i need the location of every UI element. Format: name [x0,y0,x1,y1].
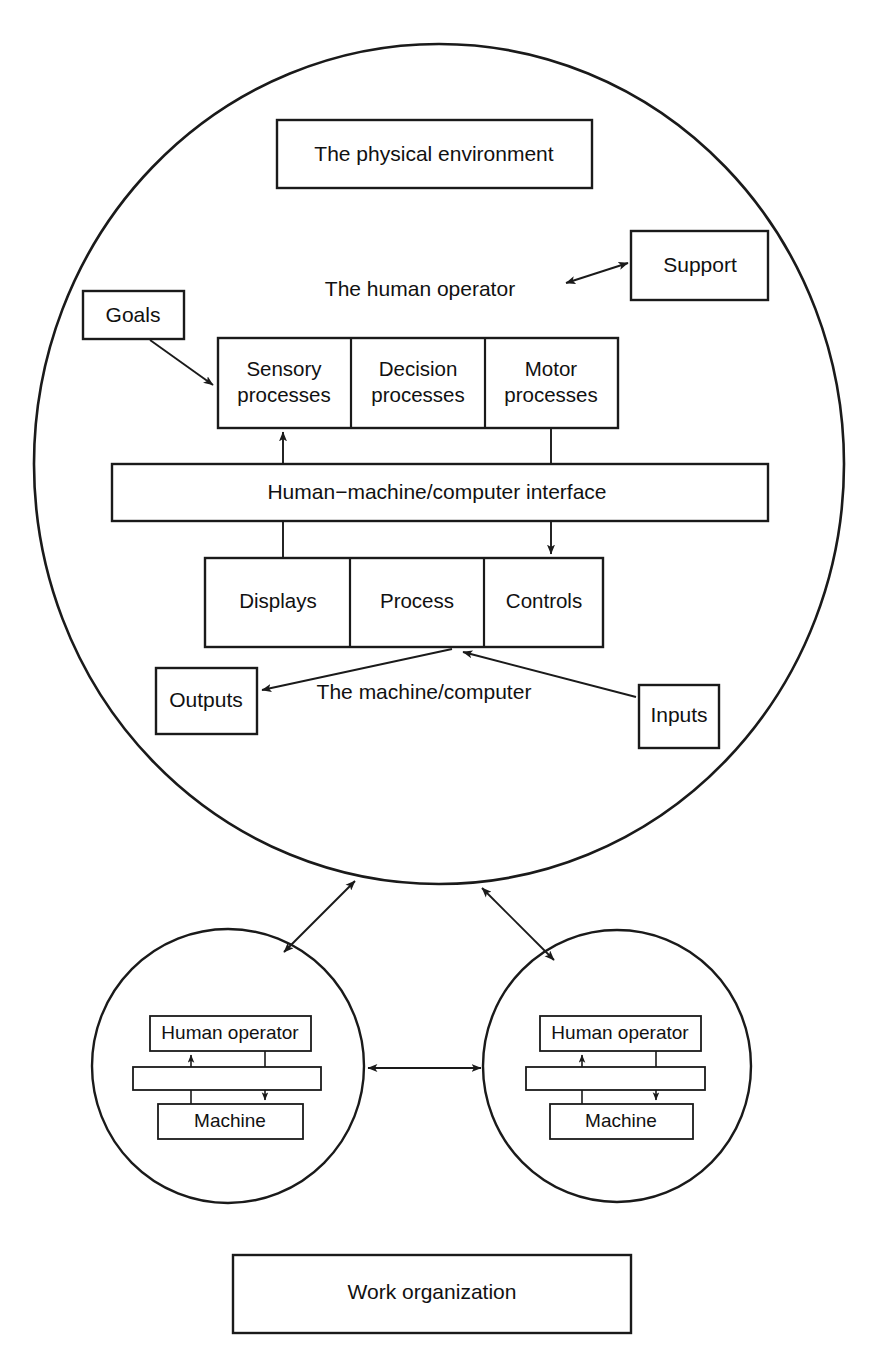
systems-ergonomics-diagram: The physical environment Support The hum… [0,0,869,1364]
diagram-canvas: The physical environment Support The hum… [0,0,869,1364]
goals-to-sensory-arrow [150,340,213,385]
support-label: Support [663,253,737,276]
left-subsystem-boundary [92,929,364,1203]
inputs-label: Inputs [650,703,707,726]
human-operator-section-label: The human operator [325,277,515,300]
machine-computer-section-label: The machine/computer [317,680,532,703]
human-machine-interface-label: Human−machine/computer interface [267,480,606,503]
physical-environment-label: The physical environment [314,142,553,165]
motor-processes-line1: Motor [525,357,578,380]
left-machine-label: Machine [194,1110,266,1131]
left-human-operator-label: Human operator [161,1022,299,1043]
displays-label: Displays [239,589,316,612]
sensory-processes-line2: processes [237,383,330,406]
right-human-operator-label: Human operator [551,1022,689,1043]
left-interface-bar [133,1067,321,1090]
main-to-right-subsystem-arrow [482,888,554,960]
work-organization-label: Work organization [348,1280,517,1303]
outputs-label: Outputs [169,688,243,711]
sensory-processes-line1: Sensory [246,357,322,380]
process-label: Process [380,589,454,612]
controls-label: Controls [506,589,582,612]
right-interface-bar [526,1067,705,1090]
main-to-left-subsystem-arrow [284,881,355,952]
decision-processes-line2: processes [371,383,464,406]
goals-label: Goals [106,303,161,326]
right-subsystem-boundary [483,930,751,1202]
motor-processes-line2: processes [504,383,597,406]
decision-processes-line1: Decision [379,357,458,380]
support-bidirectional-arrow [566,263,628,283]
right-machine-label: Machine [585,1110,657,1131]
